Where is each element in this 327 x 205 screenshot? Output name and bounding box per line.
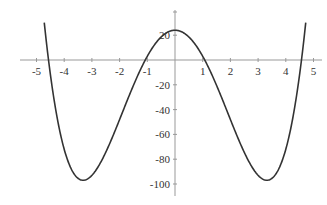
x-tick-label: -1 — [143, 65, 152, 77]
x-tick-label: -5 — [32, 65, 42, 77]
y-tick-label: -40 — [155, 104, 170, 116]
x-tick-label: -2 — [115, 65, 124, 77]
y-tick-label: -80 — [155, 153, 170, 165]
x-tick-label: 1 — [200, 65, 206, 77]
x-tick-label: 5 — [311, 65, 317, 77]
x-tick-label: -4 — [60, 65, 70, 77]
x-tick-label: 2 — [228, 65, 234, 77]
x-tick-label: 3 — [255, 65, 261, 77]
function-plot: -5-4-3-2-11234520-20-40-60-80-100 — [0, 0, 327, 205]
y-tick-label: -20 — [155, 79, 170, 91]
x-tick-label: -3 — [87, 65, 97, 77]
y-tick-label: -60 — [155, 128, 170, 140]
y-tick-label: -100 — [150, 178, 171, 190]
x-tick-label: 4 — [283, 65, 289, 77]
